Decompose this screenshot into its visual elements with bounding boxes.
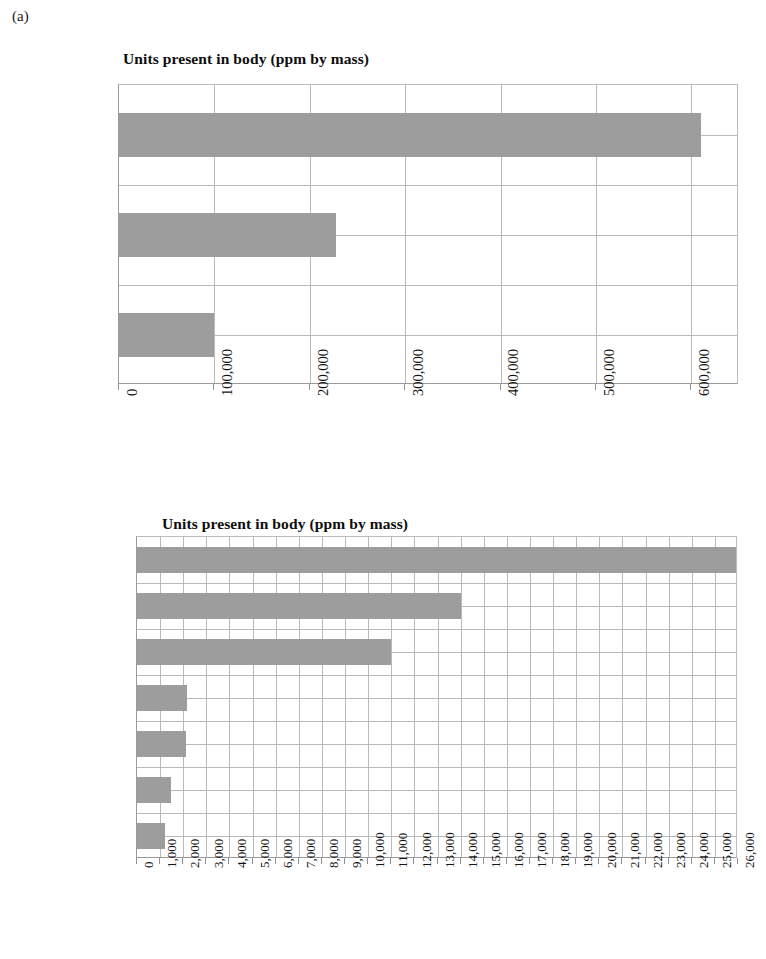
gridline-vertical [322,537,323,857]
gridline-horizontal [119,185,737,186]
axis-tick-label: 9,000 [349,839,365,868]
gridline-horizontal [137,813,736,814]
axis-tick [714,858,715,864]
axis-tick-label: 500,000 [601,349,618,396]
axis-tick [529,858,530,864]
gridline-horizontal [137,721,736,722]
axis-tick-label: 1,000 [164,839,180,868]
bar [137,823,165,849]
bar [137,777,171,803]
axis-tick-label: 100,000 [219,349,236,396]
axis-tick-label: 16,000 [511,832,527,868]
axis-tick [645,858,646,864]
bar [137,593,461,619]
axis-tick-label: 400,000 [505,349,522,396]
axis-tick-label: 300,000 [410,349,427,396]
gridline-horizontal [137,744,736,745]
gridline-horizontal [137,629,736,630]
gridline-horizontal [137,836,736,837]
axis-tick [413,858,414,864]
gridline-vertical [345,537,346,857]
axis-tick-label: 8,000 [326,839,342,868]
axis-tick [552,858,553,864]
axis-tick-label: 25,000 [719,832,735,868]
gridline-vertical [438,537,439,857]
axis-tick [205,858,206,864]
axis-tick [500,384,501,390]
axis-tick-label: 26,000 [742,832,758,868]
plot-area [136,536,737,858]
gridline-vertical [414,537,415,857]
gridline-vertical [391,537,392,857]
axis-tick-label: 15,000 [488,832,504,868]
axis-tick [309,384,310,390]
axis-tick [213,384,214,390]
gridline-vertical [206,537,207,857]
bar [137,685,187,711]
gridline-vertical [646,537,647,857]
axis-tick-label: 14,000 [465,832,481,868]
axis-tick [690,384,691,390]
axis-tick [437,858,438,864]
gridline-vertical [299,537,300,857]
axis-tick [228,858,229,864]
panel-label: (a) [12,8,29,25]
gridline-vertical [530,537,531,857]
gridline-vertical [599,537,600,857]
axis-tick-label: 0 [141,862,157,869]
gridline-horizontal [137,767,736,768]
bar [119,213,336,257]
gridline-horizontal [137,698,736,699]
axis-tick-label: 10,000 [372,832,388,868]
plot-area [118,84,738,384]
gridline-vertical [276,537,277,857]
gridline-vertical [669,537,670,857]
gridline-vertical [368,537,369,857]
axis-tick-label: 3,000 [211,839,227,868]
gridline-vertical [229,537,230,857]
axis-tick [321,858,322,864]
gridline-vertical [461,537,462,857]
axis-tick [136,858,137,864]
gridline-vertical [507,537,508,857]
axis-tick [737,858,738,864]
axis-tick-label: 24,000 [696,832,712,868]
axis-tick-label: 19,000 [580,832,596,868]
axis-tick [159,858,160,864]
axis-tick [118,384,119,390]
bar [137,639,391,665]
gridline-vertical [553,537,554,857]
axis-tick [460,858,461,864]
axis-tick [483,858,484,864]
axis-tick [691,858,692,864]
bar [137,731,186,757]
chart-title: Units present in body (ppm by mass) [162,515,408,533]
axis-tick-label: 12,000 [419,832,435,868]
axis-tick [506,858,507,864]
bar [137,547,737,573]
gridline-horizontal [119,285,737,286]
axis-tick [298,858,299,864]
gridline-vertical [692,537,693,857]
axis-tick [621,858,622,864]
axis-tick-label: 20,000 [604,832,620,868]
gridline-horizontal [137,675,736,676]
axis-tick [668,858,669,864]
axis-tick-label: 21,000 [627,832,643,868]
gridline-horizontal [137,583,736,584]
axis-tick [252,858,253,864]
axis-tick [598,858,599,864]
axis-tick-label: 13,000 [442,832,458,868]
axis-tick-label: 17,000 [534,832,550,868]
axis-tick-label: 5,000 [257,839,273,868]
bar [119,113,701,157]
axis-tick [575,858,576,864]
gridline-vertical [253,537,254,857]
axis-tick-label: 600,000 [696,349,713,396]
gridline-vertical [622,537,623,857]
axis-tick-label: 2,000 [187,839,203,868]
axis-tick-label: 11,000 [395,833,411,868]
axis-tick-label: 18,000 [557,832,573,868]
axis-tick-label: 4,000 [234,839,250,868]
gridline-vertical [715,537,716,857]
